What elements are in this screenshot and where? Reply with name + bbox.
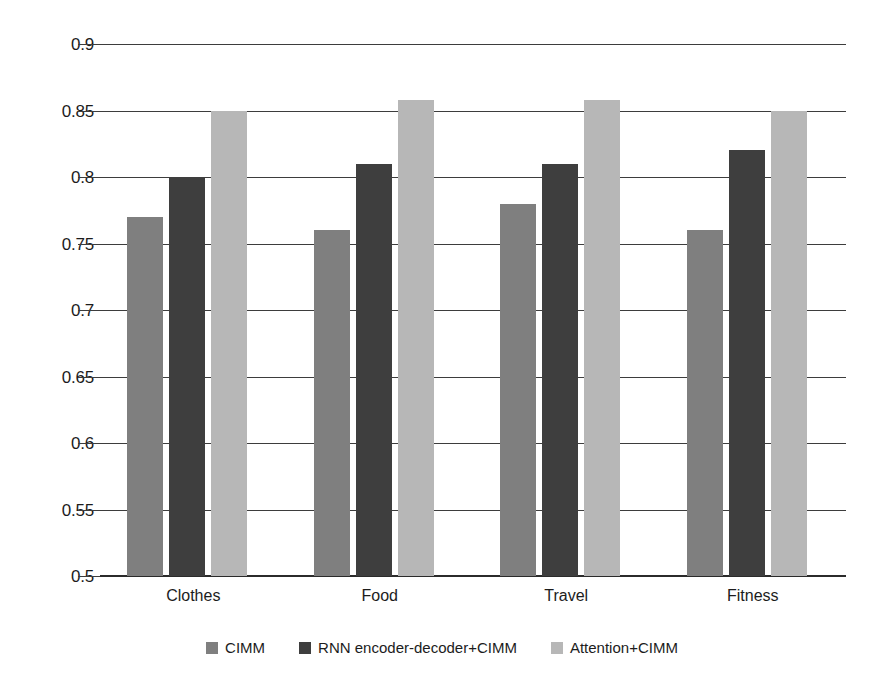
plot-area [100,44,846,576]
bar [356,164,392,576]
bar [169,177,205,576]
y-axis-tick-mark [78,310,100,311]
bar-group [500,44,620,576]
bar [314,230,350,576]
bar [584,100,620,576]
bar-group [687,44,807,576]
y-axis-tick-mark [78,244,100,245]
y-axis-tick-mark [78,177,100,178]
x-axis-tick-label: Clothes [123,588,263,604]
legend-label: RNN encoder-decoder+CIMM [318,640,517,655]
legend: CIMMRNN encoder-decoder+CIMMAttention+CI… [0,640,884,655]
y-axis-tick-mark [78,111,100,112]
x-axis-tick-label: Fitness [683,588,823,604]
legend-item[interactable]: CIMM [206,640,265,655]
bar-chart: 0.90.850.80.750.70.650.60.550.5 ClothesF… [0,0,884,687]
legend-item[interactable]: Attention+CIMM [551,640,678,655]
bar [729,150,765,576]
legend-label: CIMM [225,640,265,655]
bar [542,164,578,576]
y-axis-tick-mark [78,510,100,511]
y-axis-tick-mark [78,44,100,45]
bar [398,100,434,576]
legend-swatch-icon [551,642,563,654]
y-axis-tick-mark [78,443,100,444]
bar-group [127,44,247,576]
x-axis-tick-label: Travel [496,588,636,604]
x-axis-tick-label: Food [310,588,450,604]
legend-swatch-icon [206,642,218,654]
y-axis-tick-mark [78,576,100,577]
bar [500,204,536,576]
bar [127,217,163,576]
legend-label: Attention+CIMM [570,640,678,655]
legend-swatch-icon [299,642,311,654]
bar [771,111,807,577]
y-axis-tick-mark [78,377,100,378]
legend-item[interactable]: RNN encoder-decoder+CIMM [299,640,517,655]
bar [687,230,723,576]
bar-group [314,44,434,576]
bar [211,111,247,577]
